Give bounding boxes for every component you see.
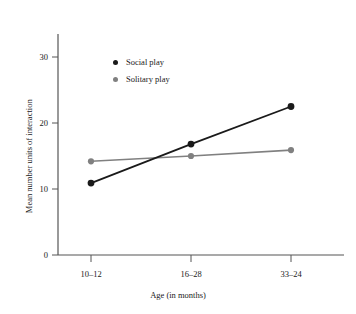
legend-item-social-play: Social play xyxy=(113,54,170,71)
data-point-social-play-2 xyxy=(288,103,295,110)
data-point-social-play-1 xyxy=(188,141,195,148)
y-axis-title: Mean number units of interaction xyxy=(25,66,34,246)
data-point-solitary-play-1 xyxy=(188,153,194,159)
legend-marker-icon-solitary-play xyxy=(113,77,118,82)
legend-marker-icon-social-play xyxy=(113,60,118,65)
data-point-social-play-0 xyxy=(88,180,95,187)
x-tick-label-2: 33–24 xyxy=(251,270,331,279)
data-point-solitary-play-2 xyxy=(288,147,294,153)
plot-area xyxy=(0,0,356,314)
chart-legend: Social play Solitary play xyxy=(113,54,170,88)
data-point-solitary-play-0 xyxy=(88,158,94,164)
chart-container: 0 10 20 30 10–12 16–28 33–24 Mean number… xyxy=(0,0,356,314)
legend-label-social-play: Social play xyxy=(126,58,164,67)
x-axis-title: Age (in months) xyxy=(0,291,356,300)
x-tick-label-1: 16–28 xyxy=(151,270,231,279)
x-tick-label-0: 10–12 xyxy=(51,270,131,279)
y-tick-label-30: 30 xyxy=(22,53,48,62)
legend-label-solitary-play: Solitary play xyxy=(126,75,170,84)
y-tick-label-0: 0 xyxy=(22,251,48,260)
legend-item-solitary-play: Solitary play xyxy=(113,71,170,88)
